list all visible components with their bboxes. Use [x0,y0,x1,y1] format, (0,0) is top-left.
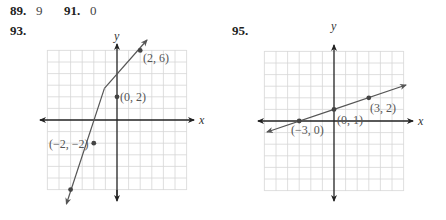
point-label: (−3, 0) [291,123,324,137]
x-axis-label: x [198,113,205,127]
point-label: (−2, −2) [49,137,89,151]
x-axis-label: x [417,114,424,128]
point-0-2 [115,94,120,99]
y-axis-label: y [113,29,120,43]
point-3-2 [366,95,371,100]
point-2-6 [138,48,143,53]
y-axis-label: y [330,19,337,33]
point-0-1 [332,107,337,112]
point-neg2-neg2 [91,141,96,146]
point-label: (0, 2) [120,90,146,104]
graph-93: y x (2, 6) (0, 2) (−2, −2) [0,0,223,220]
point-label: (2, 6) [143,51,169,65]
point-label: (0, 1) [337,113,363,127]
point-neg4-neg6 [68,187,73,192]
graph-95: y x (3, 2) (0, 1) (−3, 0) [223,0,446,220]
graph-line [104,40,147,88]
point-label: (3, 2) [370,101,396,115]
